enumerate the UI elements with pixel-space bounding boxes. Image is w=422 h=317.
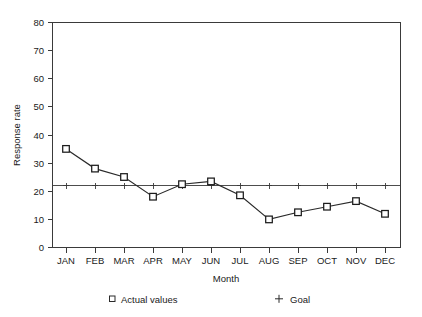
x-tick-label-may: MAY	[172, 255, 193, 266]
actual-values-series	[63, 146, 389, 223]
data-point-jan	[63, 146, 70, 153]
goal-series	[53, 183, 401, 189]
x-tick-label-dec: DEC	[375, 255, 395, 266]
y-tick-label-0: 0	[39, 242, 44, 253]
x-tick-label-sep: SEP	[288, 255, 307, 266]
x-tick-label-mar: MAR	[113, 255, 134, 266]
data-point-feb	[92, 165, 99, 172]
y-tick-label-70: 70	[33, 45, 44, 56]
x-tick-label-apr: APR	[143, 255, 163, 266]
legend-plus-icon	[275, 295, 283, 303]
data-point-aug	[266, 216, 273, 223]
data-point-dec	[382, 211, 389, 218]
x-axis-ticks	[66, 248, 385, 253]
x-tick-label-oct: OCT	[317, 255, 337, 266]
y-tick-label-60: 60	[33, 73, 44, 84]
data-point-oct	[324, 203, 331, 210]
data-point-jun	[208, 178, 215, 185]
x-tick-label-aug: AUG	[259, 255, 280, 266]
data-point-mar	[121, 174, 128, 181]
plot-border	[53, 23, 401, 248]
data-point-nov	[353, 198, 360, 205]
y-tick-label-40: 40	[33, 130, 44, 141]
y-tick-label-80: 80	[33, 17, 44, 28]
x-tick-label-nov: NOV	[346, 255, 367, 266]
y-tick-label-10: 10	[33, 214, 44, 225]
legend-label-actual-values: Actual values	[121, 294, 178, 305]
response-rate-chart: 0 10 20 30 40 50 60 70 80 JAN	[0, 0, 422, 317]
actual-values-markers	[63, 146, 389, 223]
y-axis-labels: 0 10 20 30 40 50 60 70 80	[33, 17, 44, 253]
x-axis-title: Month	[213, 273, 239, 284]
y-tick-label-30: 30	[33, 158, 44, 169]
legend-square-icon	[110, 296, 116, 302]
chart-canvas: 0 10 20 30 40 50 60 70 80 JAN	[0, 0, 422, 317]
data-point-apr	[150, 193, 157, 200]
x-axis-labels: JAN FEB MAR APR MAY JUN JUL AUG SEP OCT …	[57, 255, 395, 266]
plot-frame	[53, 23, 401, 248]
y-tick-label-50: 50	[33, 101, 44, 112]
x-tick-label-feb: FEB	[86, 255, 104, 266]
data-point-jul	[237, 192, 244, 199]
legend-label-goal: Goal	[290, 294, 310, 305]
x-tick-label-jan: JAN	[57, 255, 75, 266]
y-tick-label-20: 20	[33, 186, 44, 197]
y-axis-ticks	[48, 23, 53, 248]
chart-legend: Actual values Goal	[110, 294, 311, 305]
data-point-sep	[295, 209, 302, 216]
x-tick-label-jun: JUN	[202, 255, 221, 266]
data-point-may	[179, 181, 186, 188]
y-axis-title: Response rate	[11, 104, 22, 166]
actual-values-polyline	[66, 149, 385, 220]
x-tick-label-jul: JUL	[232, 255, 249, 266]
